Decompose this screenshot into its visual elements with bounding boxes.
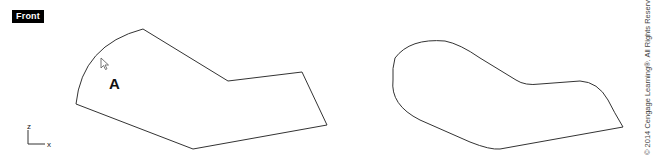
copyright-notice: © 2014 Cengage Learning®. All Rights Res… (643, 0, 652, 155)
arrow-pointer-icon (101, 58, 109, 70)
point-label-a: A (109, 75, 120, 92)
drawing-canvas (0, 0, 658, 160)
axis-indicator (28, 130, 45, 144)
axis-label-z: z (27, 122, 31, 131)
filleted-polyline-shape[interactable] (393, 41, 623, 150)
axis-label-x: x (47, 140, 51, 149)
